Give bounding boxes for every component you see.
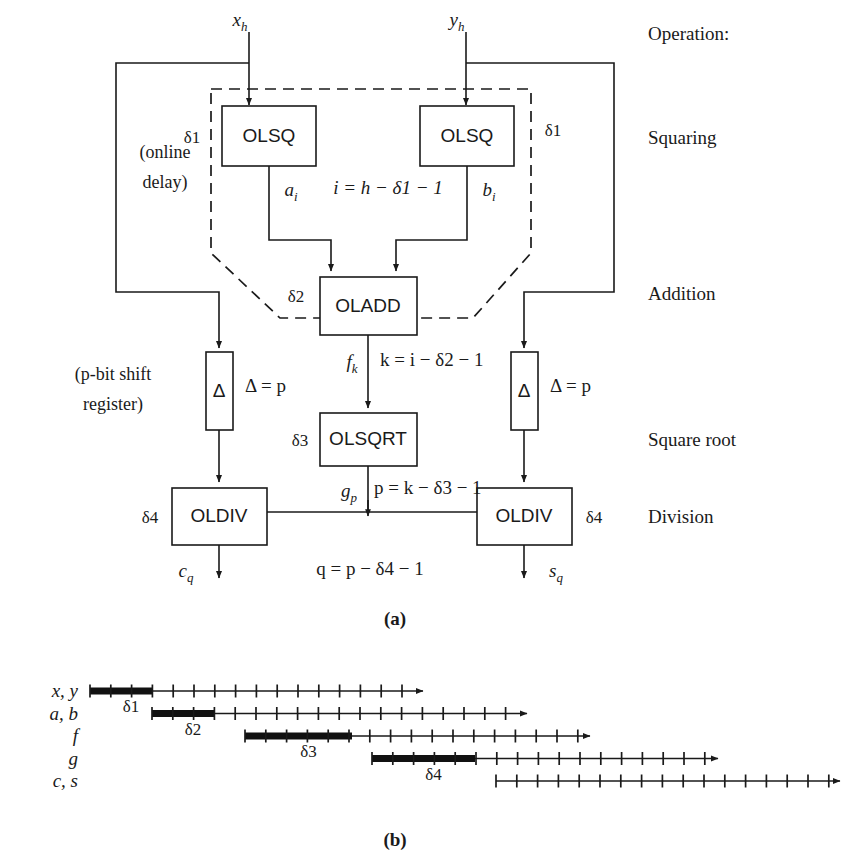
- online-arithmetic-block-diagram: OLSQ OLSQ OLADD OLSQRT Δ: [0, 0, 858, 866]
- block-oladd-label: OLADD: [335, 295, 400, 316]
- svg-text:gp: gp: [341, 480, 358, 505]
- label-input-x: xh: [232, 9, 248, 34]
- timeline-row-label: g: [69, 748, 79, 769]
- block-delta-right-label: Δ: [518, 380, 531, 401]
- svg-text:sq: sq: [549, 560, 563, 585]
- timeline-delay-label: δ2: [185, 720, 202, 739]
- label-signal-f: fk: [346, 351, 357, 376]
- timeline-chart: x, yδ1a, bδ2fδ3gδ4c, s: [50, 680, 841, 791]
- label-online-delay-line1: (online: [140, 142, 191, 163]
- svg-text:cq: cq: [179, 560, 194, 585]
- label-delta3: δ3: [292, 431, 309, 450]
- block-olsqrt-label: OLSQRT: [329, 428, 407, 449]
- timeline-delay-label: δ4: [425, 765, 442, 784]
- block-oldiv-right: OLDIV: [477, 488, 572, 545]
- svg-text:xh: xh: [232, 9, 248, 34]
- block-olsq-left: OLSQ: [222, 106, 316, 166]
- timeline-row: x, yδ1: [51, 680, 423, 716]
- timeline-row-label: a, b: [50, 703, 79, 724]
- block-olsq-left-label: OLSQ: [243, 125, 296, 146]
- label-signal-a: ai: [284, 179, 298, 204]
- label-delta1-right: δ1: [545, 121, 562, 140]
- block-delta-left: Δ: [206, 352, 233, 430]
- svg-text:yh: yh: [448, 9, 465, 34]
- timeline-delay-label: δ3: [300, 742, 317, 761]
- label-signal-g: gp: [341, 480, 358, 505]
- timeline-row-label: x, y: [51, 680, 79, 701]
- block-oldiv-left: OLDIV: [172, 488, 267, 545]
- timeline-delay-label: δ1: [123, 697, 140, 716]
- operation-row-addition: Addition: [648, 283, 716, 304]
- timeline-row: fδ3: [73, 725, 590, 761]
- label-delta4-right: δ4: [586, 508, 603, 527]
- block-olsq-right-label: OLSQ: [441, 125, 494, 146]
- block-delta-right: Δ: [511, 352, 538, 430]
- block-olsq-right: OLSQ: [420, 106, 514, 166]
- label-delta4-left: δ4: [142, 508, 159, 527]
- block-olsqrt: OLSQRT: [320, 413, 417, 466]
- block-delta-left-label: Δ: [213, 380, 226, 401]
- equation-p: p = k − δ3 − 1: [374, 477, 482, 498]
- block-oladd: OLADD: [320, 277, 417, 335]
- label-shift-register-line1: (p-bit shift: [75, 364, 152, 385]
- label-signal-b: bi: [482, 179, 496, 204]
- svg-text:bi: bi: [482, 179, 496, 204]
- block-oldiv-left-label: OLDIV: [190, 505, 247, 526]
- caption-b: (b): [383, 829, 406, 851]
- figure-root: OLSQ OLSQ OLADD OLSQRT Δ: [0, 0, 858, 866]
- operation-row-squaring: Squaring: [648, 127, 717, 148]
- svg-text:ai: ai: [284, 179, 298, 204]
- label-delta-eq-right: Δ = p: [550, 375, 591, 396]
- caption-a: (a): [384, 608, 406, 630]
- equation-i: i = h − δ1 − 1: [333, 177, 443, 198]
- label-delta-eq-left: Δ = p: [245, 375, 286, 396]
- wire-olsq-left-to-oladd: [269, 166, 331, 271]
- label-input-y: yh: [448, 9, 465, 34]
- equation-q: q = p − δ4 − 1: [316, 558, 424, 579]
- operation-row-division: Division: [648, 506, 714, 527]
- label-delta2: δ2: [288, 287, 305, 306]
- timeline-row: c, s: [53, 770, 840, 791]
- label-shift-register-line2: register): [83, 394, 143, 415]
- timeline-row-label: f: [73, 725, 81, 746]
- equation-k: k = i − δ2 − 1: [380, 349, 483, 370]
- operation-row-square-root: Square root: [648, 429, 737, 450]
- block-oldiv-right-label: OLDIV: [495, 505, 552, 526]
- label-signal-c: cq: [179, 560, 194, 585]
- timeline-row-label: c, s: [53, 770, 78, 791]
- label-online-delay-line2: delay): [143, 172, 188, 193]
- operation-column-header: Operation:: [648, 23, 729, 44]
- label-signal-s: sq: [549, 560, 563, 585]
- svg-text:fk: fk: [346, 351, 357, 376]
